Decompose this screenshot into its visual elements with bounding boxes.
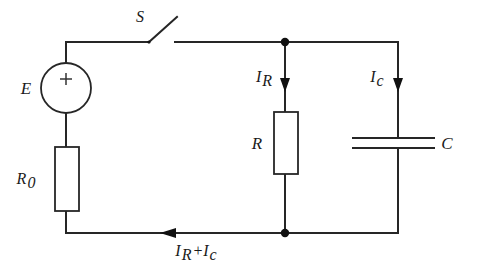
resistor-r0-label-main: R xyxy=(16,170,27,187)
current-arrow-ic-head xyxy=(393,78,403,92)
current-arrow-ic xyxy=(393,78,403,92)
resistor-r-body xyxy=(274,112,298,174)
resistor-r0 xyxy=(55,147,79,211)
source-label: E xyxy=(20,79,32,98)
current-arrow-ir-head xyxy=(280,78,290,92)
resistor-r0-body xyxy=(55,147,79,211)
source-circle xyxy=(41,63,91,113)
current-ir-label-sub: R xyxy=(261,72,272,89)
resistor-r0-label-sub: 0 xyxy=(27,174,35,191)
itotal-first-sub: R xyxy=(181,246,192,263)
current-ir-label-main: I xyxy=(255,68,262,85)
resistor-r0-label: R0 xyxy=(16,170,36,191)
voltage-source-e xyxy=(41,63,91,113)
capacitor-label: C xyxy=(441,134,453,153)
current-ic-label-main: I xyxy=(369,68,376,85)
itotal-second-main: I xyxy=(202,242,209,259)
current-itotal-label: IR+Ic xyxy=(174,242,216,263)
circuit-diagram-canvas: S E R0 R C xyxy=(0,0,480,273)
current-ir-label: IR xyxy=(255,68,272,89)
switch-s[interactable] xyxy=(147,17,177,44)
current-arrow-itotal-head xyxy=(160,228,176,238)
switch-blade[interactable] xyxy=(149,17,177,42)
itotal-second-sub: c xyxy=(210,246,217,263)
top-junction-dot xyxy=(281,38,289,46)
current-arrow-ir xyxy=(280,78,290,92)
bottom-junction-dot xyxy=(281,229,289,237)
circuit-schematic: S E R0 R C xyxy=(0,0,480,273)
itotal-operator: + xyxy=(192,242,203,259)
itotal-first-main: I xyxy=(174,242,181,259)
current-arrow-itotal xyxy=(160,228,176,238)
switch-hinge-contact xyxy=(147,40,150,43)
current-ic-label-sub: c xyxy=(377,72,384,89)
resistor-r xyxy=(274,112,298,174)
resistor-r-label: R xyxy=(251,134,263,153)
switch-label: S xyxy=(136,8,144,25)
capacitor-c xyxy=(352,138,435,148)
current-ic-label: Ic xyxy=(369,68,383,89)
